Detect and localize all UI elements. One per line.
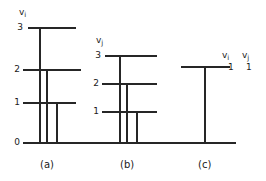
- panel-a-tick-3: 3: [10, 23, 23, 32]
- panel-a-tick-1: 1: [7, 98, 20, 107]
- panel-b-tick-1: 1: [86, 107, 99, 116]
- panel-c-axis-label-j: vj: [242, 51, 249, 62]
- panel-c-axis-subscript-i: i: [227, 54, 229, 62]
- panel-c-lines: [181, 67, 230, 143]
- panel-c-value-i: 1: [228, 63, 236, 72]
- panel-b-axis-label: vj: [96, 36, 103, 47]
- panel-c-axis-label-i: vi: [222, 51, 229, 62]
- panel-a-axis-subscript: i: [24, 11, 26, 19]
- panel-a-tick-2: 2: [7, 65, 20, 74]
- panel-a-tick-0: 0: [7, 138, 20, 147]
- energy-level-diagram: vi 3 2 1 0 (a) vj 3 2 1 (b) vi vj 1 1 (c…: [0, 0, 266, 181]
- panel-b-tick-3: 3: [88, 51, 101, 60]
- panel-a-lines: [23, 28, 81, 143]
- panel-a-caption: (a): [40, 160, 54, 170]
- panel-b-axis-subscript: j: [101, 39, 103, 47]
- panel-c-caption: (c): [198, 160, 211, 170]
- panel-b-caption: (b): [120, 160, 134, 170]
- panel-c-value-j: 1: [246, 63, 254, 72]
- panel-a-axis-label: vi: [19, 8, 26, 19]
- panel-b-lines: [102, 56, 157, 143]
- diagram-canvas: [0, 0, 266, 181]
- panel-b-tick-2: 2: [86, 79, 99, 88]
- panel-c-axis-subscript-j: j: [247, 54, 249, 62]
